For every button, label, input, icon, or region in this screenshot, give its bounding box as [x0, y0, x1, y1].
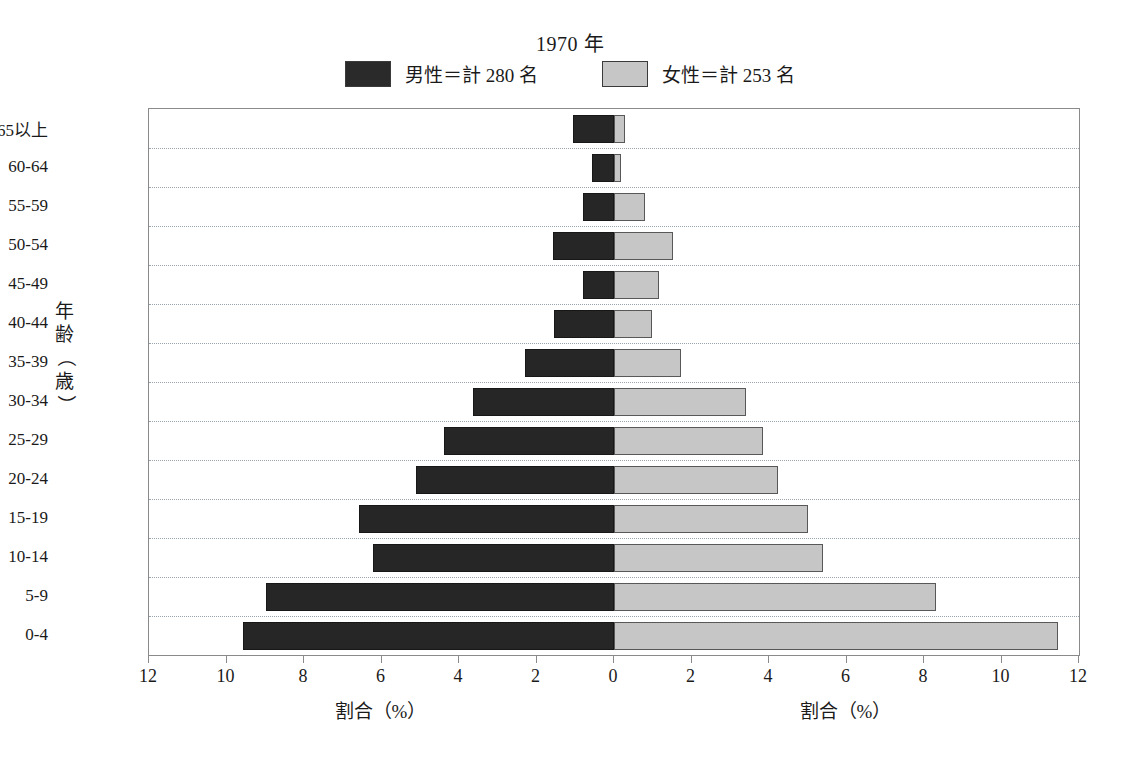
bar-male [583, 193, 614, 221]
pyramid-row [149, 148, 1079, 187]
pyramid-row [149, 421, 1079, 460]
x-axis-tick-mark [846, 655, 847, 663]
plot-area [148, 108, 1080, 656]
x-axis-tick-mark [691, 655, 692, 663]
bar-male [583, 271, 614, 299]
y-axis-title-char-2: （ [53, 348, 76, 368]
x-axis-title-right: 割合（%） [736, 696, 956, 723]
x-axis-tick-label: 8 [283, 666, 323, 687]
legend-label-female: 女性＝計 253 名 [662, 60, 795, 87]
y-axis-title-char-4: ） [53, 394, 76, 414]
bar-male [554, 310, 614, 338]
y-axis-tick-label: 30-34 [0, 391, 48, 411]
bar-male [359, 505, 614, 533]
bar-female [614, 271, 659, 299]
y-axis-tick-label: 65以上 [0, 115, 48, 140]
bar-male [473, 388, 614, 416]
x-axis-tick-label: 12 [1058, 666, 1098, 687]
y-axis-tick-label: 5-9 [0, 586, 48, 606]
y-axis-tick-label: 20-24 [0, 469, 48, 489]
bar-male [592, 154, 614, 182]
bar-female [614, 193, 645, 221]
y-axis-tick-label: 40-44 [0, 313, 48, 333]
x-axis-tick-label: 10 [981, 666, 1021, 687]
bar-female [614, 349, 681, 377]
bar-male [266, 583, 614, 611]
population-pyramid-figure: 1970 年 男性＝計 280 名 女性＝計 253 名 年 齢 （ 歳 ） 6… [0, 0, 1140, 758]
bar-female [614, 115, 625, 143]
x-axis-tick-mark [226, 655, 227, 663]
bar-male [416, 466, 614, 494]
x-axis-tick-mark [613, 655, 614, 663]
y-axis-title-char-0: 年 [52, 300, 78, 323]
pyramid-row [149, 577, 1079, 616]
y-axis-tick-label: 10-14 [0, 547, 48, 567]
chart-title: 1970 年 [0, 28, 1140, 57]
bar-female [614, 505, 808, 533]
bar-female [614, 622, 1058, 650]
y-axis-tick-label: 35-39 [0, 352, 48, 372]
x-axis-tick-label: 2 [671, 666, 711, 687]
legend-entry-female: 女性＝計 253 名 [602, 60, 795, 87]
bar-female [614, 466, 778, 494]
x-axis-tick-mark [458, 655, 459, 663]
x-axis-tick-mark [923, 655, 924, 663]
bar-female [614, 388, 746, 416]
y-axis-tick-label: 15-19 [0, 508, 48, 528]
x-axis-tick-label: 12 [128, 666, 168, 687]
x-axis-tick-label: 10 [206, 666, 246, 687]
x-axis-tick-label: 8 [903, 666, 943, 687]
y-axis-tick-label: 55-59 [0, 196, 48, 216]
x-axis-tick-mark [536, 655, 537, 663]
x-axis-tick-label: 6 [826, 666, 866, 687]
x-axis-tick-mark [768, 655, 769, 663]
pyramid-row [149, 226, 1079, 265]
bar-male [573, 115, 614, 143]
bar-male [525, 349, 614, 377]
y-axis-tick-label: 0-4 [0, 625, 48, 645]
pyramid-row [149, 343, 1079, 382]
y-axis-title-char-1: 齢 [52, 323, 78, 346]
y-axis-tick-label: 45-49 [0, 274, 48, 294]
bar-female [614, 310, 652, 338]
x-axis-tick-mark [1078, 655, 1079, 663]
bar-female [614, 427, 763, 455]
x-axis-tick-mark [303, 655, 304, 663]
pyramid-row [149, 304, 1079, 343]
y-axis-tick-label: 60-64 [0, 157, 48, 177]
bar-female [614, 544, 823, 572]
bar-female [614, 232, 673, 260]
pyramid-row [149, 265, 1079, 304]
x-axis-tick-label: 2 [516, 666, 556, 687]
x-axis-tick-mark [1001, 655, 1002, 663]
bar-male [243, 622, 614, 650]
pyramid-row [149, 187, 1079, 226]
x-axis-tick-mark [148, 655, 149, 663]
bar-male [553, 232, 614, 260]
x-axis-tick-label: 6 [361, 666, 401, 687]
y-axis-title: 年 齢 （ 歳 ） [52, 300, 78, 416]
pyramid-row [149, 616, 1079, 655]
legend-entry-male: 男性＝計 280 名 [345, 60, 538, 87]
pyramid-row [149, 382, 1079, 421]
bar-female [614, 583, 936, 611]
bar-female [614, 154, 621, 182]
pyramid-row [149, 109, 1079, 148]
x-axis-tick-label: 4 [438, 666, 478, 687]
chart-legend: 男性＝計 280 名 女性＝計 253 名 [0, 60, 1140, 87]
x-axis-title-left: 割合（%） [271, 696, 491, 723]
legend-swatch-male-icon [345, 61, 391, 87]
y-axis-tick-label: 25-29 [0, 430, 48, 450]
pyramid-row [149, 538, 1079, 577]
x-axis-tick-label: 0 [593, 666, 633, 687]
legend-label-male: 男性＝計 280 名 [405, 60, 538, 87]
pyramid-row [149, 499, 1079, 538]
x-axis-tick-mark [381, 655, 382, 663]
x-axis-tick-label: 4 [748, 666, 788, 687]
bar-male [373, 544, 614, 572]
bar-male [444, 427, 614, 455]
y-axis-tick-label: 50-54 [0, 235, 48, 255]
y-axis-title-char-3: 歳 [52, 370, 78, 393]
legend-swatch-female-icon [602, 61, 648, 87]
pyramid-row [149, 460, 1079, 499]
